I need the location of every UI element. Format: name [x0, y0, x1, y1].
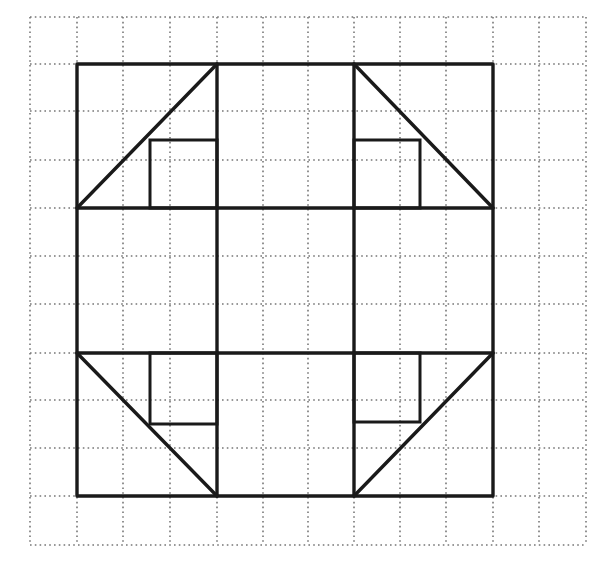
background	[0, 0, 609, 561]
quilt-diagram	[0, 0, 609, 561]
